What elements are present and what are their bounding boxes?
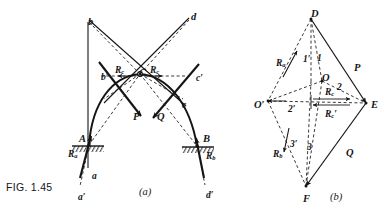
panel-b-label-reaction-Rb: Rb — [273, 150, 283, 160]
vertex-E — [365, 102, 368, 105]
force-line-Q — [153, 64, 199, 118]
panel-b-label-seg-1: 1 — [317, 54, 322, 64]
construction-lines-b — [268, 19, 366, 186]
panel-b-label-crown-thrust-Rc: Rc — [325, 88, 334, 98]
panel-a-label-load-Q: Q — [157, 112, 165, 123]
panel-b-label-load-P: P — [354, 63, 360, 74]
panel-b-label-load-Q: Q — [346, 148, 354, 159]
panel-b-label-reaction-Ra: Ra — [276, 59, 286, 69]
panel-a-caption: (a) — [139, 186, 151, 197]
panel-a-label-c: c — [182, 101, 186, 111]
panel-a-label-b: b — [88, 17, 93, 28]
panel-a-label-B: B — [203, 134, 210, 145]
panel-b-label-seg-1-prime: 1′ — [303, 55, 310, 65]
panel-b-label-F: F — [303, 194, 310, 205]
panel-a-label-load-P: P — [133, 112, 139, 123]
figure-canvas — [0, 0, 384, 213]
panel-a-label-crown-thrust-right: Rc — [150, 66, 159, 76]
panel-a-label-C: C — [139, 68, 146, 79]
panel-b-label-O-prime: O′ — [254, 100, 265, 111]
panel-a-label-crown-thrust-left: Rc — [115, 66, 124, 76]
ray-b-to-c — [89, 20, 186, 106]
panel-b-label-seg-3-prime: 3′ — [290, 140, 297, 150]
reaction-arrow-Rb-b — [284, 128, 289, 152]
figure-number: FIG. 1.45 — [6, 181, 52, 193]
panel-b-label-seg-2: 2 — [337, 83, 342, 93]
panel-b-label-O: O — [322, 73, 330, 84]
panel-a-label-a-prime: a′ — [78, 193, 85, 203]
panel-a-label-d-prime: d′ — [206, 191, 213, 201]
panel-a-artwork — [72, 18, 214, 186]
panel-a-label-c-prime: c′ — [196, 74, 203, 84]
panel-a-label-a: a — [92, 172, 97, 182]
panel-a-label-d: d — [191, 12, 196, 23]
vertex-F — [305, 185, 308, 188]
panel-a-label-reaction-Rb: Rb — [206, 152, 216, 162]
panel-b-label-crown-thrust-Rc-prime: Rc′ — [325, 110, 337, 120]
panel-b-label-D: D — [311, 9, 319, 20]
panel-a-label-A: A — [79, 134, 86, 145]
panel-b-label-E: E — [371, 100, 378, 111]
panel-b-artwork — [267, 18, 368, 188]
panel-b-caption: (b) — [330, 191, 342, 202]
panel-a-label-b-prime: b′ — [101, 73, 108, 83]
panel-b-label-seg-3: 3 — [307, 143, 312, 153]
panel-b-label-seg-2-prime: 2′ — [288, 105, 295, 115]
vertex-O-prime — [267, 100, 270, 103]
panel-a-label-reaction-Ra: Ra — [68, 150, 78, 160]
